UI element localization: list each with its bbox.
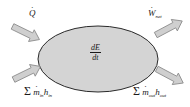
work-rate-symbol: W	[148, 8, 156, 18]
enthalpy-out-subscript: out	[160, 93, 166, 98]
energy-rate-denominator: dt	[90, 53, 101, 62]
work-out-arrow-icon	[153, 15, 186, 41]
sum-symbol: Σ	[133, 84, 140, 98]
work-rate-label: Wnet	[148, 8, 162, 19]
heat-rate-label: Q	[29, 8, 36, 18]
energy-rate-label: dE dt	[90, 43, 101, 62]
mass-flow-out-symbol: m	[142, 87, 149, 97]
mass-in-label: Σ minhin	[24, 84, 52, 99]
work-rate-subscript: net	[156, 14, 162, 19]
energy-rate-numerator: dE	[90, 43, 101, 53]
sum-symbol: Σ	[24, 84, 31, 98]
enthalpy-in-subscript: in	[48, 93, 52, 98]
heat-rate-symbol: Q	[29, 8, 36, 18]
heat-in-arrow-icon	[10, 21, 43, 46]
mass-flow-in-symbol: m	[33, 87, 40, 97]
mass-out-label: Σ mouthout	[133, 84, 166, 99]
